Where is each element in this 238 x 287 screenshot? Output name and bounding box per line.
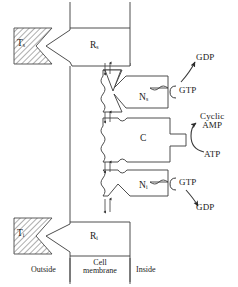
gtp-bracket-upper <box>170 86 176 98</box>
gdp-lower-label: GDP <box>196 203 214 212</box>
gtp-upper-label: GTP <box>179 86 196 95</box>
cyclic-amp-label: Cyclic AMP <box>200 112 224 130</box>
figure-canvas: Ts Ti Rs Ri Ns Ni C GTP GTP GDP GDP Cycl… <box>0 0 238 287</box>
transmitter-ts-label: Ts <box>17 39 25 49</box>
g-protein-ns-label: Ns <box>139 93 148 103</box>
receptor-ri-label: Ri <box>90 232 98 242</box>
catalytic-subunit-label: C <box>140 134 146 144</box>
gtp-lower-label: GTP <box>179 178 196 187</box>
cell-membrane-label: Cell membrane <box>75 259 125 275</box>
transmitter-ti-label: Ti <box>17 229 24 239</box>
gdp-upper-label: GDP <box>196 53 214 62</box>
receptor-ri-shape <box>46 222 130 256</box>
g-protein-ni-shape <box>101 170 168 196</box>
atp-label: ATP <box>204 150 220 159</box>
outside-label: Outside <box>31 266 56 274</box>
receptor-rs-shape <box>46 28 130 66</box>
gtp-bracket-lower <box>170 178 176 190</box>
arrow-gdp-upper <box>181 62 195 82</box>
inside-label: Inside <box>136 266 156 274</box>
signal-transduction-diagram <box>0 0 238 287</box>
cyclic-amp-line2: AMP <box>200 121 224 130</box>
receptor-rs-label: Rs <box>90 41 99 51</box>
cell-membrane-line2: membrane <box>75 267 125 275</box>
g-protein-ni-label: Ni <box>139 181 148 191</box>
